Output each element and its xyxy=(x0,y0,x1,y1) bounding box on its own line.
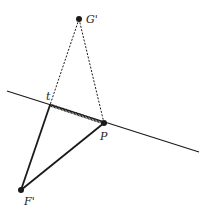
point-p xyxy=(101,120,107,126)
point-f xyxy=(18,187,24,193)
dashed-line-g-t xyxy=(50,19,79,105)
label-f: F' xyxy=(23,195,35,208)
label-g: G' xyxy=(86,13,98,26)
dashed-line-g-p xyxy=(79,19,104,123)
geometry-diagram: G' t P F' xyxy=(0,0,208,209)
segment-f-p xyxy=(21,123,104,190)
label-p: P xyxy=(99,130,108,143)
label-t: t xyxy=(46,90,51,103)
point-g xyxy=(76,16,82,22)
